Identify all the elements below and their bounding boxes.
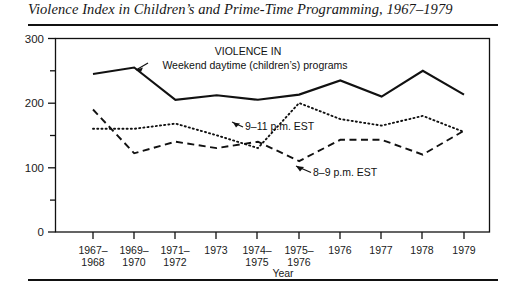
x-tick-3-line1: 1973 (204, 244, 228, 256)
x-tick-5-line1: 1975– (284, 244, 313, 256)
y-label-0: 0 (38, 226, 44, 238)
y-axis-ticks (48, 39, 56, 233)
x-tick-2-line1: 1971– (160, 244, 189, 256)
x-tick-7-line1: 1977 (369, 244, 393, 256)
y-axis-labels: 300 200 100 0 (25, 33, 44, 239)
x-tick-8-line1: 1978 (410, 244, 434, 256)
figure-container: Violence Index in Children’s and Prime-T… (0, 0, 519, 299)
annotations-group: VIOLENCE IN Weekend daytime (children’s)… (136, 45, 378, 178)
y-label-200: 200 (25, 97, 44, 109)
x-tick-9-line1: 1979 (452, 244, 476, 256)
x-axis-ticks (93, 232, 464, 239)
annotation-violence-in: VIOLENCE IN (215, 45, 282, 57)
annotation-weekend-daytime: Weekend daytime (children’s) programs (162, 59, 347, 71)
annotation-9-11pm: 9–11 p.m. EST (245, 120, 315, 132)
x-tick-4-line2: 1975 (245, 256, 269, 268)
x-tick-6-line1: 1976 (328, 244, 352, 256)
x-tick-0-line2: 1968 (81, 256, 105, 268)
series-8-9pm-path (93, 110, 464, 162)
annotation-8-9pm: 8–9 p.m. EST (313, 166, 378, 178)
y-label-300: 300 (25, 33, 44, 45)
x-tick-2-line2: 1972 (163, 256, 187, 268)
y-label-100: 100 (25, 162, 44, 174)
x-tick-1-line1: 1969– (119, 244, 148, 256)
x-tick-4-line1: 1974– (242, 244, 271, 256)
x-tick-1-line2: 1970 (122, 256, 146, 268)
line-chart: 300 200 100 0 1967– 1968 1969– 1970 1971… (0, 0, 519, 299)
x-axis-labels: 1967– 1968 1969– 1970 1971– 1972 1973 19… (78, 244, 475, 268)
x-tick-0-line1: 1967– (78, 244, 107, 256)
x-axis-title: Year (272, 267, 294, 279)
series-weekend-daytime-path (93, 68, 464, 100)
series-group (93, 68, 464, 162)
